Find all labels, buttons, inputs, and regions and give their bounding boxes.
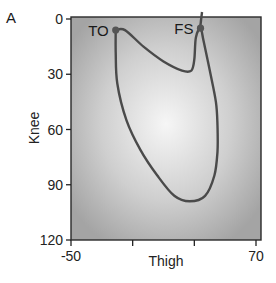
- y-tick-label: 120: [40, 232, 64, 248]
- y-tick-label: 30: [47, 66, 63, 82]
- y-tick-label: 0: [55, 11, 63, 27]
- x-tick-label: 70: [248, 248, 264, 264]
- y-axis: 0306090120: [40, 11, 71, 248]
- x-tick-label: -50: [61, 248, 81, 264]
- event-label-to: TO: [88, 22, 109, 39]
- event-marker-fs: [197, 25, 204, 32]
- y-tick-label: 90: [47, 177, 63, 193]
- chart: 0306090120 -5070 TOFS Thigh Knee: [0, 0, 276, 283]
- plot-area: [71, 17, 261, 240]
- y-tick-label: 60: [47, 122, 63, 138]
- y-axis-title: Knee: [26, 111, 42, 144]
- x-axis-title: Thigh: [148, 253, 183, 269]
- event-marker-to: [112, 26, 119, 33]
- event-label-fs: FS: [174, 20, 193, 37]
